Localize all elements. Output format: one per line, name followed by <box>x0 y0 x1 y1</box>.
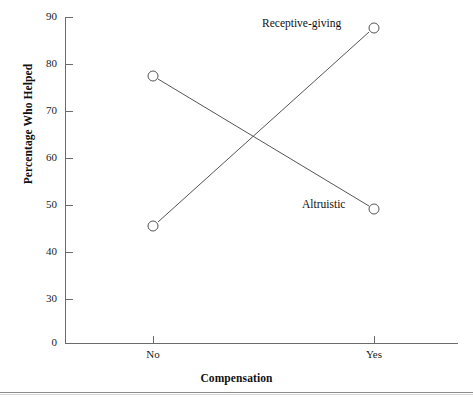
series-line-receptive-giving <box>158 32 369 222</box>
y-tick-label-0: 0 <box>27 336 57 348</box>
y-tick-label-90: 90 <box>27 10 57 22</box>
x-tick-label-no: No <box>123 348 183 360</box>
chart-plot-area <box>0 0 473 401</box>
chart-figure: 90 80 70 60 50 40 30 0 No Yes Receptive-… <box>0 0 473 401</box>
footer-divider <box>0 392 473 393</box>
data-point-receptive-giving-yes <box>369 23 379 33</box>
series-label-altruistic: Altruistic <box>302 198 345 210</box>
data-point-receptive-giving-no <box>148 221 158 231</box>
series-label-receptive-giving: Receptive-giving <box>262 17 341 29</box>
series-line-altruistic <box>158 79 369 206</box>
data-point-altruistic-yes <box>369 204 379 214</box>
x-tick-label-yes: Yes <box>344 348 404 360</box>
footer-divider-shadow <box>0 394 473 395</box>
x-axis-ticks <box>154 336 375 343</box>
data-point-altruistic-no <box>148 71 158 81</box>
y-axis-title: Percentage Who Helped <box>22 34 34 214</box>
y-axis-ticks <box>65 18 73 300</box>
y-tick-label-40: 40 <box>27 245 57 257</box>
x-axis-title: Compensation <box>0 372 473 384</box>
y-tick-label-30: 30 <box>27 292 57 304</box>
